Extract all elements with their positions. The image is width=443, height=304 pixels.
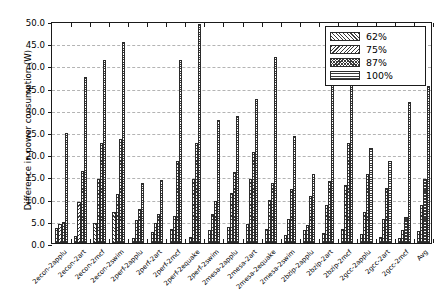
bar-group — [132, 23, 144, 243]
bar-group — [303, 23, 315, 243]
bar-group — [208, 23, 220, 243]
bar-group — [151, 23, 163, 243]
y-tick-label: 0.0 — [31, 240, 45, 250]
bar — [312, 174, 315, 243]
bar-group — [74, 23, 86, 243]
bar — [103, 60, 106, 243]
bar — [408, 102, 411, 243]
bar-chart-figure: Difference in power consumption (W) 0.05… — [0, 0, 443, 304]
bar — [236, 116, 239, 243]
bar — [65, 133, 68, 243]
bar — [141, 183, 144, 243]
bar — [427, 86, 430, 243]
y-tick-label: 5.0 — [31, 218, 45, 228]
y-tick-label: 45.0 — [26, 40, 45, 50]
y-tick-label: 40.0 — [26, 62, 45, 72]
legend-swatch — [330, 45, 360, 54]
legend-item: 75% — [330, 43, 421, 56]
bar — [198, 24, 201, 243]
y-tick-label: 25.0 — [26, 129, 45, 139]
legend-label: 62% — [366, 32, 387, 41]
legend-swatch — [330, 71, 360, 80]
legend-label: 100% — [366, 71, 393, 80]
bar — [388, 161, 391, 243]
legend-label: 87% — [366, 58, 387, 67]
y-tick-label: 20.0 — [26, 151, 45, 161]
x-tick-mark-top — [433, 23, 434, 27]
bar — [179, 60, 182, 243]
bar — [331, 80, 334, 243]
bar — [217, 120, 220, 243]
bar — [160, 180, 163, 243]
legend-item: 87% — [330, 56, 421, 69]
legend-item: 100% — [330, 69, 421, 82]
y-tick-label: 50.0 — [26, 18, 45, 28]
bar-group — [170, 23, 182, 243]
bar — [255, 99, 258, 243]
y-tick-label: 10.0 — [26, 196, 45, 206]
bar — [274, 57, 277, 243]
x-tick-label: Avg — [416, 248, 430, 262]
bar-group — [227, 23, 239, 243]
y-tick-label: 30.0 — [26, 107, 45, 117]
legend-swatch — [330, 32, 360, 41]
legend-swatch — [330, 58, 360, 67]
bar — [122, 42, 125, 243]
bar-group — [93, 23, 105, 243]
bar — [293, 136, 296, 243]
bar-group — [55, 23, 67, 243]
y-tick-label: 15.0 — [26, 173, 45, 183]
bar-group — [246, 23, 258, 243]
y-tick-mark — [48, 245, 52, 246]
legend-label: 75% — [366, 45, 387, 54]
bar-group — [112, 23, 124, 243]
legend-item: 62% — [330, 30, 421, 43]
bar — [369, 148, 372, 243]
bar-group — [284, 23, 296, 243]
bar-group — [189, 23, 201, 243]
y-tick-label: 35.0 — [26, 85, 45, 95]
legend: 62%75%87%100% — [325, 26, 426, 86]
bar — [84, 77, 87, 243]
x-tick-mark — [433, 239, 434, 243]
bar-group — [265, 23, 277, 243]
